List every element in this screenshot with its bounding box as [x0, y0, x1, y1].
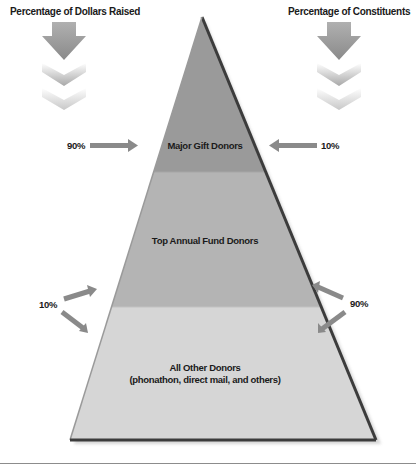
right-header: Percentage of Constituents — [288, 6, 410, 17]
tier-all-other-label: All Other Donors — [0, 362, 413, 374]
tier-all-other-sublabel: (phonathon, direct mail, and others) — [0, 374, 413, 386]
tier2-constituents-pct: 90% — [350, 298, 368, 309]
left-split-arrows-icon — [62, 285, 97, 333]
left-header: Percentage of Dollars Raised — [10, 6, 140, 17]
bottom-divider — [0, 463, 416, 464]
left-down-arrows-icon — [42, 22, 86, 110]
tier-major-gift-label: Major Gift Donors — [0, 140, 413, 152]
tier-top-annual-label: Top Annual Fund Donors — [0, 235, 413, 247]
right-down-arrows-icon — [317, 22, 361, 110]
tier2-dollars-pct: 10% — [39, 299, 57, 310]
